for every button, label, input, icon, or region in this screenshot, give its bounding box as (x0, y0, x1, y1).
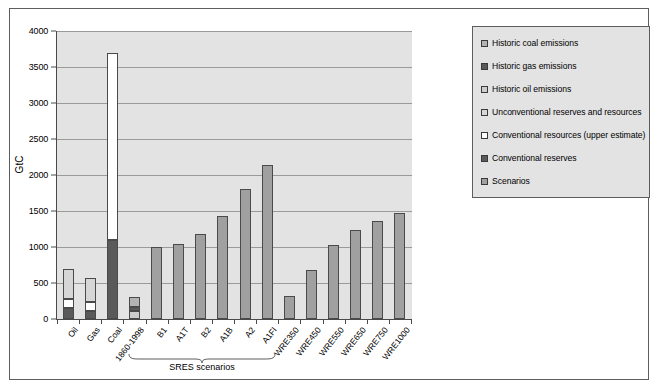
x-tick-label: Coal (106, 325, 125, 345)
bar[interactable] (240, 189, 251, 319)
bar-segment[interactable] (63, 299, 74, 308)
bar[interactable] (328, 245, 339, 319)
bar[interactable] (217, 216, 228, 319)
bar-segment[interactable] (129, 307, 140, 311)
legend-swatch-icon (481, 63, 488, 70)
bar-segment[interactable] (107, 240, 118, 319)
x-tick-mark (345, 320, 346, 324)
x-tick-label: A2 (243, 325, 257, 339)
legend-swatch-icon (481, 155, 488, 162)
legend-label: Historic oil emissions (492, 84, 571, 94)
x-tick-label: Gas (85, 325, 102, 343)
x-tick-label: B2 (198, 325, 212, 339)
legend-item[interactable]: Historic coal emissions (481, 36, 578, 50)
legend-item[interactable]: Historic oil emissions (481, 82, 571, 96)
legend: Historic coal emissionsHistoric gas emis… (472, 26, 650, 198)
y-tick-label: 2000 (29, 170, 48, 180)
bar-segment[interactable] (129, 311, 140, 319)
bar-segment[interactable] (284, 296, 295, 319)
bar-segment[interactable] (85, 311, 96, 319)
bar-series (57, 31, 411, 319)
legend-swatch-icon (481, 132, 488, 139)
bar-segment[interactable] (328, 245, 339, 319)
legend-label: Conventional resources (upper estimate) (492, 130, 645, 140)
bar[interactable] (129, 297, 140, 319)
y-tick-label: 1000 (29, 242, 48, 252)
legend-label: Scenarios (492, 176, 530, 186)
x-tick-mark (323, 320, 324, 324)
y-tick-label: 3000 (29, 98, 48, 108)
y-axis: 05001000150020002500300035004000 (10, 23, 56, 329)
bar[interactable] (63, 269, 74, 319)
bar[interactable] (195, 234, 206, 319)
x-tick-mark (168, 320, 169, 324)
bar[interactable] (262, 165, 273, 319)
bar-segment[interactable] (107, 53, 118, 240)
y-tick-label: 500 (34, 278, 48, 288)
legend-label: Unconventional reserves and resources (492, 107, 642, 117)
bar-segment[interactable] (129, 297, 140, 307)
x-tick-mark (256, 320, 257, 324)
bar[interactable] (173, 244, 184, 319)
bar[interactable] (107, 53, 118, 319)
legend-item[interactable]: Scenarios (481, 174, 530, 188)
legend-swatch-icon (481, 40, 488, 47)
y-tick-label: 4000 (29, 26, 48, 36)
x-tick-label: A1FI (260, 325, 279, 345)
y-tick-label: 3500 (29, 62, 48, 72)
bar[interactable] (151, 247, 162, 319)
x-tick-label: A1B (217, 325, 235, 344)
bar-segment[interactable] (63, 269, 74, 299)
bar-segment[interactable] (350, 230, 361, 319)
legend-item[interactable]: Unconventional reserves and resources (481, 105, 642, 119)
bar-segment[interactable] (262, 165, 273, 319)
legend-item[interactable]: Conventional reserves (481, 151, 576, 165)
bar-segment[interactable] (306, 270, 317, 319)
chart-figure: GtC 05001000150020002500300035004000 Oil… (0, 0, 658, 389)
bar[interactable] (394, 213, 405, 319)
x-tick-mark (79, 320, 80, 324)
sres-brace-icon (128, 350, 276, 362)
y-tick-label: 2500 (29, 134, 48, 144)
bar-segment[interactable] (195, 234, 206, 319)
legend-swatch-icon (481, 109, 488, 116)
x-tick-mark (146, 320, 147, 324)
legend-label: Conventional reserves (492, 153, 576, 163)
x-tick-mark (101, 320, 102, 324)
y-tick-label: 0 (43, 314, 48, 324)
legend-item[interactable]: Historic gas emissions (481, 59, 576, 73)
bar-segment[interactable] (372, 221, 383, 319)
y-tick-label: 1500 (29, 206, 48, 216)
legend-label: Historic coal emissions (492, 38, 578, 48)
bar[interactable] (284, 296, 295, 319)
x-tick-label: Oil (66, 325, 80, 339)
legend-swatch-icon (481, 178, 488, 185)
x-tick-label: A1T (173, 325, 190, 343)
x-tick-mark (234, 320, 235, 324)
bar[interactable] (306, 270, 317, 319)
bar[interactable] (85, 278, 96, 319)
x-tick-mark (123, 320, 124, 324)
bar-segment[interactable] (394, 213, 405, 319)
x-tick-mark (300, 320, 301, 324)
bar-segment[interactable] (85, 278, 96, 301)
bar[interactable] (372, 221, 383, 319)
bar-segment[interactable] (240, 189, 251, 319)
legend-item[interactable]: Conventional resources (upper estimate) (481, 128, 645, 142)
x-tick-mark (389, 320, 390, 324)
bar-segment[interactable] (63, 308, 74, 319)
sres-caption: SRES scenarios (128, 362, 276, 372)
x-tick-label: B1 (154, 325, 168, 339)
x-tick-mark (190, 320, 191, 324)
x-tick-mark (367, 320, 368, 324)
bar-segment[interactable] (85, 302, 96, 311)
x-tick-mark (57, 320, 58, 324)
x-tick-mark (411, 320, 412, 324)
x-tick-mark (212, 320, 213, 324)
bar-segment[interactable] (151, 247, 162, 319)
bar[interactable] (350, 230, 361, 319)
bar-segment[interactable] (173, 244, 184, 319)
legend-swatch-icon (481, 86, 488, 93)
bar-segment[interactable] (217, 216, 228, 319)
legend-label: Historic gas emissions (492, 61, 576, 71)
